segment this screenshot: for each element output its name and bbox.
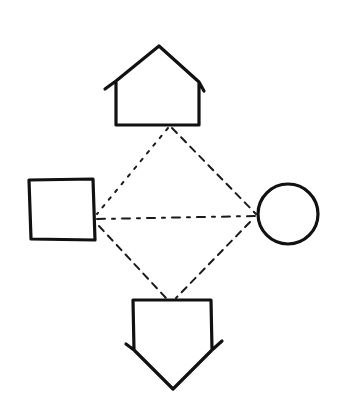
edge-square-shield: [99, 226, 166, 298]
circle-shape: [258, 184, 318, 244]
square-node[interactable]: [29, 179, 95, 240]
edge-circle-shield: [176, 222, 250, 298]
edge-square-circle: [97, 216, 256, 219]
edges: [97, 128, 256, 298]
square-shape: [29, 179, 95, 240]
edge-house-square: [97, 128, 168, 214]
house-shape: [105, 46, 204, 125]
edge-house-circle: [172, 128, 256, 214]
house-node[interactable]: [105, 46, 204, 125]
shield-shape: [126, 300, 222, 389]
diagram-canvas: [0, 0, 340, 420]
shield-node[interactable]: [126, 300, 222, 389]
circle-node[interactable]: [258, 184, 318, 244]
